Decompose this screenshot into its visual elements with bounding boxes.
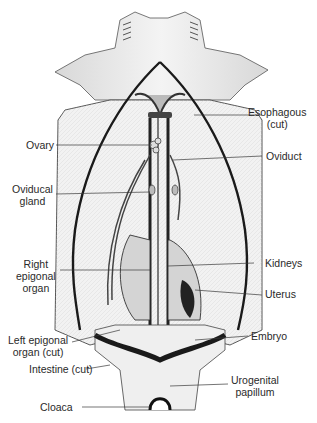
label-oviduct: Oviduct (266, 150, 302, 162)
label-embryo-line1: Embryo (251, 330, 287, 342)
label-intestine: Intestine (cut) (29, 363, 93, 375)
label-urogenital-line2: papillum (231, 386, 279, 398)
label-urogenital-papillum: Urogenital papillum (231, 374, 279, 398)
label-embryo: Embryo (251, 330, 287, 342)
label-right-epigonal-line3: organ (16, 282, 56, 294)
label-ovary-line1: Ovary (26, 139, 54, 151)
label-intestine-line1: Intestine (cut) (29, 363, 93, 375)
label-oviducal-gland-line1: Oviducal (12, 183, 53, 195)
label-left-epigonal-line2: organ (cut) (8, 346, 68, 358)
label-ovary: Ovary (26, 139, 54, 151)
tail-region (95, 325, 225, 410)
label-kidneys-line1: Kidneys (265, 257, 302, 269)
label-left-epigonal-line1: Left epigonal (8, 334, 68, 346)
label-right-epigonal-line1: Right (16, 258, 56, 270)
label-esophagous-line2: (cut) (248, 118, 306, 130)
label-oviducal-gland: Oviducal gland (12, 183, 53, 207)
label-left-epigonal-organ: Left epigonal organ (cut) (8, 334, 68, 358)
label-oviduct-line1: Oviduct (266, 150, 302, 162)
label-uterus: Uterus (265, 288, 296, 300)
label-cloaca: Cloaca (40, 401, 73, 413)
head-region (55, 12, 268, 100)
label-uterus-line1: Uterus (265, 288, 296, 300)
label-right-epigonal-organ: Right epigonal organ (16, 258, 56, 294)
label-urogenital-line1: Urogenital (231, 374, 279, 386)
label-esophagous-line1: Esophagous (248, 106, 306, 118)
label-esophagous: Esophagous (cut) (248, 106, 306, 130)
label-kidneys: Kidneys (265, 257, 302, 269)
label-cloaca-line1: Cloaca (40, 401, 73, 413)
label-oviducal-gland-line2: gland (12, 195, 53, 207)
label-right-epigonal-line2: epigonal (16, 270, 56, 282)
anatomy-illustration (0, 0, 317, 423)
